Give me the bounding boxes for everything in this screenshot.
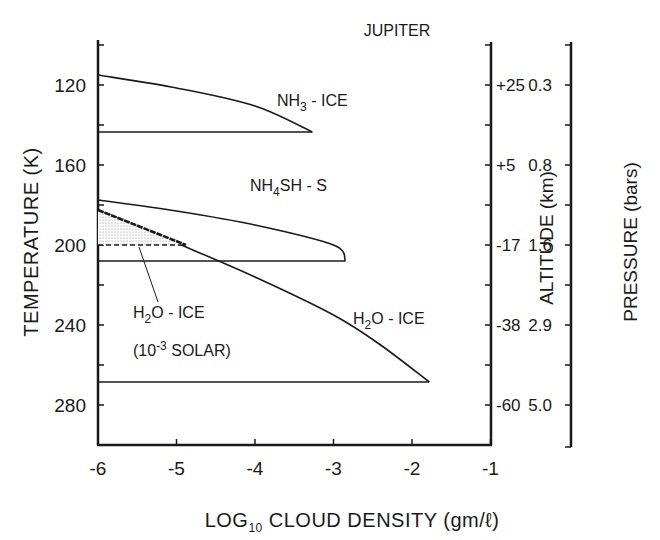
temperature-tick-label: 280: [54, 395, 86, 416]
nh3-ice-label: NH3 - ICE: [277, 92, 348, 114]
x-tick-label: -2: [404, 458, 421, 479]
temperature-tick-label: 200: [54, 235, 86, 256]
chart-canvas: JUPITER TEMPERATURE (K) LOG10 CLOUD DENS…: [0, 0, 660, 540]
pressure-tick-label: 0.3: [528, 76, 552, 95]
x-tick-label: -5: [168, 458, 185, 479]
x-tick-label: -3: [325, 458, 342, 479]
x-axis-label: LOG10 CLOUD DENSITY (gm/ℓ): [205, 509, 500, 535]
solar-label-leader-line: [139, 247, 158, 302]
chart-title: JUPITER: [364, 22, 431, 39]
nh4sh-s-label: NH4SH - S: [250, 177, 327, 199]
pressure-tick-label: 1.6: [528, 236, 552, 255]
pressure-tick-label: 0.8: [528, 156, 552, 175]
jupiter-cloud-density-chart: JUPITER TEMPERATURE (K) LOG10 CLOUD DENS…: [0, 0, 660, 540]
altitude-tick-label: -60: [496, 396, 521, 415]
x-tick-label: -4: [247, 458, 264, 479]
altitude-tick-label: +5: [496, 156, 515, 175]
temperature-tick-label: 120: [54, 75, 86, 96]
pressure-axis-label: PRESSURE (bars): [620, 162, 641, 321]
altitude-tick-label: -17: [496, 236, 521, 255]
temperature-tick-label: 240: [54, 315, 86, 336]
plot-group: [98, 75, 429, 382]
x-tick-label: -6: [90, 458, 107, 479]
x-tick-label: -1: [482, 458, 499, 479]
h2o-ice-label: H2O - ICE: [353, 310, 425, 332]
pressure-tick-label: 2.9: [528, 316, 552, 335]
pressure-tick-label: 5.0: [528, 396, 552, 415]
solar-abundance-label: (10-3 SOLAR): [133, 339, 231, 359]
altitude-tick-label: -38: [496, 316, 521, 335]
y-axis-label: TEMPERATURE (K): [20, 147, 42, 336]
altitude-tick-label: +25: [496, 76, 525, 95]
temperature-tick-label: 160: [54, 155, 86, 176]
h2o-ice-solar-label: H2O - ICE: [133, 304, 205, 326]
